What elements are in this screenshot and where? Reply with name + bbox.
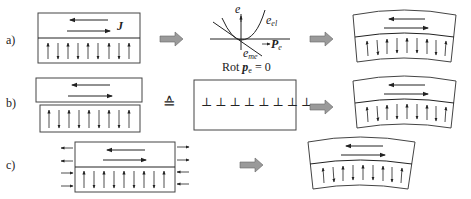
dislocation-box: ⊥⊥⊥⊥⊥⊥⊥⊥ bbox=[194, 80, 315, 130]
row-a: a) J e bbox=[6, 2, 456, 75]
dislocation-row: ⊥⊥⊥⊥⊥⊥⊥⊥ bbox=[201, 95, 315, 109]
process-arrow-icon bbox=[240, 158, 263, 172]
current-symbol: J bbox=[116, 19, 124, 33]
elastic-label: eel bbox=[266, 13, 278, 28]
equivalence-symbol: ≙ bbox=[163, 95, 176, 111]
row-b: b) ≙ ⊥⊥⊥⊥⊥⊥⊥⊥ bbox=[6, 76, 456, 132]
external-forces-left bbox=[61, 148, 73, 186]
row-label-b: b) bbox=[6, 96, 16, 110]
process-arrow-icon bbox=[310, 32, 333, 46]
row-label-c: c) bbox=[6, 158, 15, 172]
elastic-curve bbox=[222, 10, 265, 40]
bent-bilayer-c bbox=[308, 137, 415, 189]
row-label-a: a) bbox=[6, 33, 15, 47]
bent-bilayer-a bbox=[353, 10, 456, 62]
energy-graph: e eel eme Pe Rot pe = 0 bbox=[210, 2, 290, 75]
rot-caption: Rot pe = 0 bbox=[222, 60, 271, 75]
bent-bilayer-b bbox=[353, 76, 456, 128]
process-arrow-icon bbox=[160, 32, 183, 46]
flat-bilayer-a: J bbox=[38, 13, 140, 63]
external-forces-right bbox=[177, 147, 189, 184]
row-c: c) bbox=[6, 137, 415, 192]
y-axis-label: e bbox=[235, 2, 241, 16]
stressed-bilayer-c bbox=[61, 142, 189, 192]
bilayer-bending-diagram: a) J e bbox=[0, 0, 471, 199]
separated-bilayer-b bbox=[36, 78, 142, 132]
